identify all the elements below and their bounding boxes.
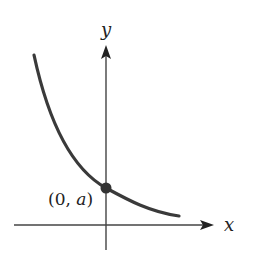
graph-canvas: y x (0, a) xyxy=(0,0,255,275)
y-intercept-point xyxy=(101,183,112,194)
x-axis-label: x xyxy=(224,214,234,235)
exponential-graph-figure: y x (0, a) xyxy=(0,0,255,275)
point-label-open: (0, xyxy=(48,189,76,209)
point-label: (0, a) xyxy=(48,189,93,209)
point-label-close: ) xyxy=(86,189,93,209)
y-axis-label: y xyxy=(100,19,112,40)
point-label-var: a xyxy=(76,189,86,209)
